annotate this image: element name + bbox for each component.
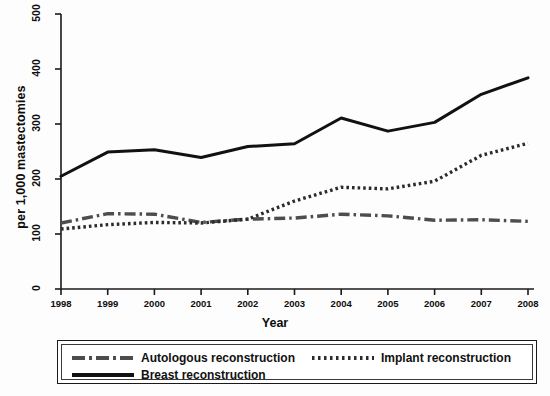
x-tick-label: 2004 <box>321 298 361 309</box>
y-axis-label: per 1,000 mastectomies <box>14 62 28 252</box>
y-tick-label: 100 <box>30 216 42 250</box>
data-series-group <box>61 78 528 229</box>
chart-container: per 1,000 mastectomies Year 010020030040… <box>0 0 550 396</box>
x-tick-label: 2005 <box>368 298 408 309</box>
x-axis-label: Year <box>0 316 550 330</box>
legend-label-breast: Breast reconstruction <box>141 368 266 382</box>
y-tick-label: 500 <box>30 0 42 30</box>
x-axis-ticks <box>61 289 528 295</box>
x-tick-label: 2001 <box>181 298 221 309</box>
legend-swatch-solid-icon <box>72 369 134 381</box>
legend-item-autologous: Autologous reconstruction <box>72 351 295 365</box>
series-line-dash-dot <box>61 214 528 223</box>
series-line-dotted <box>61 143 528 229</box>
x-tick-label: 2003 <box>275 298 315 309</box>
y-tick-label: 200 <box>30 161 42 195</box>
legend-item-breast: Breast reconstruction <box>72 368 266 382</box>
x-tick-label: 2002 <box>228 298 268 309</box>
legend: Autologous reconstruction Implant recons… <box>57 340 537 384</box>
x-tick-label: 1998 <box>41 298 81 309</box>
y-tick-label: 300 <box>30 106 42 140</box>
x-tick-label: 2007 <box>461 298 501 309</box>
legend-inner-border: Autologous reconstruction Implant recons… <box>61 344 533 380</box>
x-tick-label: 1999 <box>88 298 128 309</box>
x-tick-label: 2008 <box>508 298 548 309</box>
legend-item-implant: Implant reconstruction <box>312 351 511 365</box>
x-tick-label: 2006 <box>415 298 455 309</box>
series-line-solid <box>61 78 528 176</box>
legend-label-autologous: Autologous reconstruction <box>141 351 295 365</box>
legend-label-implant: Implant reconstruction <box>381 351 511 365</box>
y-axis-ticks <box>55 14 61 289</box>
x-tick-label: 2000 <box>134 298 174 309</box>
y-tick-label: 400 <box>30 51 42 85</box>
plot-area <box>0 0 550 396</box>
legend-swatch-dotted-icon <box>312 352 374 364</box>
legend-swatch-dash-dot-icon <box>72 352 134 364</box>
